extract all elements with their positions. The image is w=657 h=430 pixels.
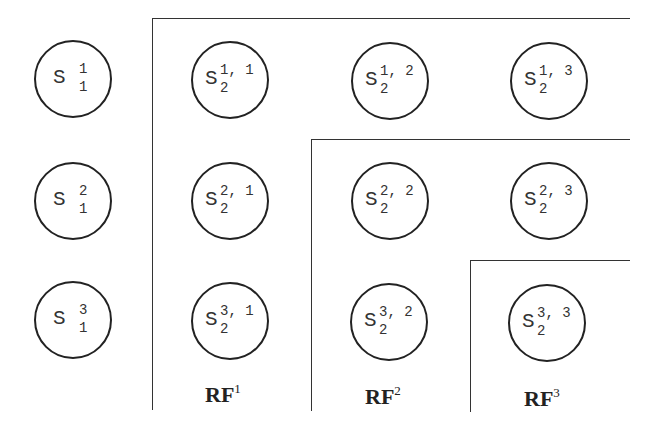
node-base: S — [53, 307, 66, 330]
rf1-label: RF1 — [205, 381, 241, 408]
node-base: S — [205, 188, 218, 211]
node-s2-2-2: S 2, 2 2 — [351, 162, 429, 240]
node-base: S — [205, 308, 218, 331]
rf2-top-border — [311, 139, 630, 140]
node-sub: 2 — [220, 321, 228, 337]
node-base: S — [365, 188, 378, 211]
rf-label-text: RF — [524, 386, 553, 411]
rf1-left-border — [152, 18, 153, 410]
rf1-top-border — [152, 18, 630, 19]
node-sub: 2 — [220, 201, 228, 217]
node-sup: 2 — [79, 183, 87, 199]
node-base: S — [365, 68, 378, 91]
node-s2-3-2: S 3, 2 2 — [350, 283, 428, 361]
node-sup: 2, 1 — [220, 183, 254, 199]
node-base: S — [524, 68, 537, 91]
rf-label-sup: 3 — [553, 385, 560, 400]
node-base: S — [53, 188, 66, 211]
node-base: S — [53, 66, 66, 89]
node-sup: 3, 2 — [379, 304, 413, 320]
node-sup: 3 — [79, 302, 87, 318]
node-sup: 1 — [79, 61, 87, 77]
rf2-label: RF2 — [365, 383, 401, 410]
node-s2-2-1: S 2, 1 2 — [191, 162, 269, 240]
node-sup: 1, 3 — [539, 63, 573, 79]
node-base: S — [522, 310, 535, 333]
node-s2-1-2: S 1, 2 2 — [351, 42, 429, 120]
receptive-field-diagram: S 1 1 S 2 1 S 3 1 S 1, 1 2 S 1, 2 2 S 1,… — [0, 0, 657, 430]
node-s2-3-1: S 3, 1 2 — [191, 282, 269, 360]
node-sup: 1, 2 — [380, 63, 414, 79]
rf3-left-border — [470, 260, 471, 412]
node-base: S — [524, 188, 537, 211]
node-sub: 2 — [380, 81, 388, 97]
node-s2-3-3: S 3, 3 2 — [508, 284, 586, 362]
node-sub: 2 — [220, 80, 228, 96]
node-s1-3: S 3 1 — [34, 281, 112, 359]
rf-label-sup: 2 — [394, 383, 401, 398]
node-sub: 2 — [380, 201, 388, 217]
rf-label-text: RF — [205, 382, 234, 407]
rf3-label: RF3 — [524, 385, 560, 412]
node-s2-1-3: S 1, 3 2 — [510, 42, 588, 120]
node-base: S — [205, 67, 218, 90]
rf3-top-border — [470, 260, 630, 261]
node-sup: 2, 2 — [380, 183, 414, 199]
node-sub: 2 — [539, 81, 547, 97]
node-sub: 2 — [379, 322, 387, 338]
node-s1-1: S 1 1 — [34, 40, 112, 118]
node-sub: 1 — [79, 201, 87, 217]
node-sup: 3, 3 — [537, 305, 571, 321]
rf-label-text: RF — [365, 384, 394, 409]
node-sup: 2, 3 — [539, 183, 573, 199]
node-sub: 1 — [79, 320, 87, 336]
node-sub: 2 — [539, 201, 547, 217]
node-sup: 3, 1 — [220, 303, 254, 319]
node-sub: 2 — [537, 323, 545, 339]
node-base: S — [364, 309, 377, 332]
node-s2-2-3: S 2, 3 2 — [510, 162, 588, 240]
node-s1-2: S 2 1 — [34, 162, 112, 240]
rf2-left-border — [311, 139, 312, 411]
node-sup: 1, 1 — [220, 62, 254, 78]
node-sub: 1 — [79, 79, 87, 95]
rf-label-sup: 1 — [234, 381, 241, 396]
node-s2-1-1: S 1, 1 2 — [191, 41, 269, 119]
